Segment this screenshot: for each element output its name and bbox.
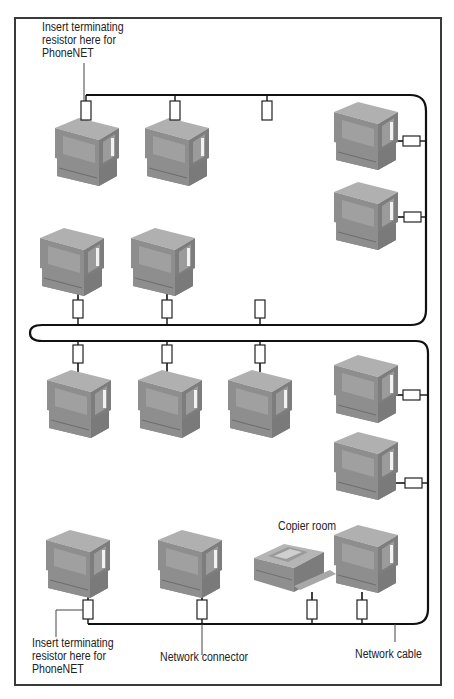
network-diagram (0, 0, 454, 699)
computer-icon (131, 228, 195, 296)
network-cable-label: Network cable (355, 648, 422, 661)
computer-icon (334, 355, 398, 423)
computer-icon (334, 525, 398, 593)
computer-icon (55, 118, 119, 186)
copier-room-label: Copier room (278, 520, 336, 533)
computer-icon (334, 432, 398, 500)
top-terminating-resistor-label: Insert terminating resistor here for Pho… (42, 21, 124, 60)
computer-icon (47, 370, 111, 438)
computers (40, 102, 398, 598)
computer-icon (228, 370, 292, 438)
bottom-terminating-resistor-label: Insert terminating resistor here for Pho… (32, 637, 114, 676)
computer-icon (138, 370, 202, 438)
computer-icon (158, 530, 222, 598)
computer-icon (334, 102, 398, 170)
network-connector-label: Network connector (160, 651, 248, 664)
computer-icon (40, 228, 104, 296)
computer-icon (145, 118, 209, 186)
computer-icon (46, 530, 110, 598)
copier-icon (254, 544, 336, 592)
computer-icon (334, 182, 398, 250)
